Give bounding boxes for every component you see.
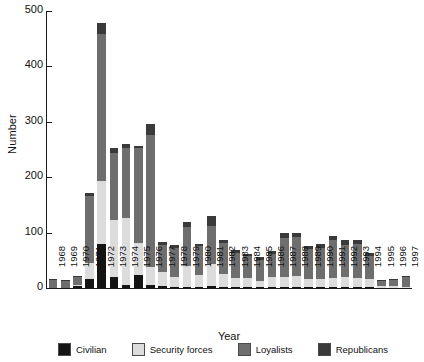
legend-label: Civilian <box>76 344 107 355</box>
x-tick-label-1968: 1968 <box>57 246 67 290</box>
y-tick-label: 0 <box>37 280 43 292</box>
x-tick-label-1978: 1978 <box>179 246 189 290</box>
y-tick-label: 500 <box>25 3 43 15</box>
x-tick-label-1982: 1982 <box>227 246 237 290</box>
y-tick-label: 100 <box>25 225 43 237</box>
bar-segment-republicans <box>146 124 155 135</box>
legend-swatch-icon <box>58 343 71 356</box>
bar-segment-loyalists <box>110 153 119 220</box>
x-axis-ticks: 1968196919701971197219731974197519761977… <box>47 290 412 334</box>
legend-label: Loyalists <box>256 344 293 355</box>
legend-item-republicans[interactable]: Republicans <box>318 343 388 356</box>
x-tick-label-1985: 1985 <box>264 246 274 290</box>
x-tick-label-1992: 1992 <box>349 246 359 290</box>
x-tick-label-1986: 1986 <box>276 246 286 290</box>
x-tick-label-1975: 1975 <box>142 246 152 290</box>
chart-figure: Number 0100200300400500 1968196919701971… <box>0 0 424 362</box>
x-tick-label-1977: 1977 <box>167 246 177 290</box>
x-tick-label-1983: 1983 <box>240 246 250 290</box>
bar-segment-security-forces <box>97 181 106 244</box>
bar-segment-republicans <box>97 23 106 34</box>
x-tick-label-1997: 1997 <box>410 246 420 290</box>
x-tick-label-1981: 1981 <box>215 246 225 290</box>
legend-item-security-forces[interactable]: Security forces <box>132 343 213 356</box>
y-tick-label: 300 <box>25 114 43 126</box>
x-tick-label-1972: 1972 <box>106 246 116 290</box>
x-tick-label-1971: 1971 <box>94 246 104 290</box>
x-tick-label-1989: 1989 <box>313 246 323 290</box>
x-tick-label-1995: 1995 <box>386 246 396 290</box>
x-tick-label-1979: 1979 <box>191 246 201 290</box>
y-tick-label: 200 <box>25 169 43 181</box>
x-tick-label-1969: 1969 <box>69 246 79 290</box>
x-tick-label-1970: 1970 <box>81 246 91 290</box>
y-axis-title: Number <box>6 94 18 174</box>
x-tick-label-1990: 1990 <box>325 246 335 290</box>
legend-swatch-icon <box>132 343 145 356</box>
bar-segment-loyalists <box>97 34 106 181</box>
x-tick-label-1984: 1984 <box>252 246 262 290</box>
x-tick-label-1994: 1994 <box>373 246 383 290</box>
legend-label: Security forces <box>150 344 213 355</box>
legend-swatch-icon <box>318 343 331 356</box>
x-tick-label-1996: 1996 <box>398 246 408 290</box>
x-tick-label-1980: 1980 <box>203 246 213 290</box>
bar-segment-loyalists <box>134 148 143 243</box>
chart-legend: CivilianSecurity forcesLoyalistsRepublic… <box>58 342 388 356</box>
legend-item-loyalists[interactable]: Loyalists <box>238 343 293 356</box>
legend-swatch-icon <box>238 343 251 356</box>
x-tick-label-1991: 1991 <box>337 246 347 290</box>
x-tick-label-1974: 1974 <box>130 246 140 290</box>
legend-label: Republicans <box>336 344 388 355</box>
x-tick-label-1987: 1987 <box>288 246 298 290</box>
x-axis-title: Year <box>46 330 412 342</box>
y-tick-mark <box>47 288 52 289</box>
x-tick-label-1993: 1993 <box>361 246 371 290</box>
y-tick-label: 400 <box>25 58 43 70</box>
x-tick-label-1988: 1988 <box>300 246 310 290</box>
bar-segment-republicans <box>207 216 216 226</box>
x-tick-label-1973: 1973 <box>118 246 128 290</box>
legend-item-civilian[interactable]: Civilian <box>58 343 107 356</box>
x-tick-label-1976: 1976 <box>154 246 164 290</box>
bar-segment-loyalists <box>122 148 131 218</box>
